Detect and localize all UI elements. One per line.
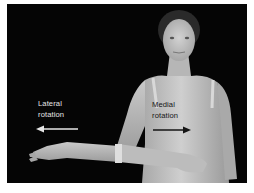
lateral-rotation-label: Lateral rotation: [38, 98, 64, 120]
upper-arm: [117, 80, 145, 154]
face: [163, 19, 195, 61]
lateral-label-line2: rotation: [38, 109, 64, 120]
medial-label-line1: Medial: [152, 99, 178, 110]
anatomy-photo: Lateral rotation Medial rotation: [7, 4, 247, 183]
elbow-band: [115, 144, 122, 163]
right-eye: [185, 37, 189, 39]
left-eye: [170, 37, 174, 39]
medial-rotation-label: Medial rotation: [152, 99, 178, 121]
figure-illustration: [7, 4, 247, 183]
medial-arrow-right-icon: [153, 126, 191, 134]
lateral-forearm: [33, 142, 119, 162]
right-strap: [212, 80, 213, 108]
medial-label-line2: rotation: [152, 110, 178, 121]
lateral-arrow-left-icon: [36, 125, 80, 133]
lateral-label-line1: Lateral: [38, 98, 64, 109]
